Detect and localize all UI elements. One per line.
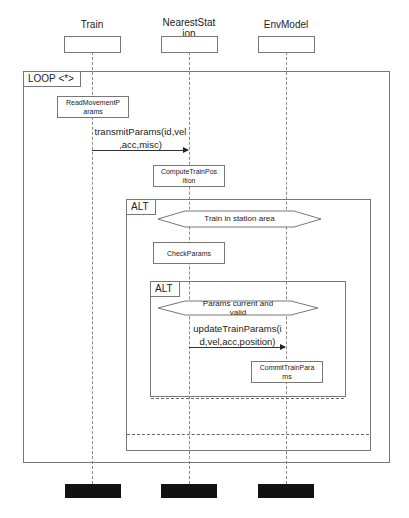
loop-frame-label: LOOP <*> [24, 72, 81, 87]
lifeline-head-nearest-station[interactable] [161, 36, 218, 53]
lifeline-foot-envmodel [258, 484, 314, 498]
lifeline-label-train: Train [52, 19, 132, 30]
activity-check-params[interactable]: CheckParams [153, 242, 225, 264]
message-transmit-params-label: transmitParams(id,vel ,acc,misc) [92, 125, 189, 151]
guard-line1: Params current and [178, 299, 298, 308]
lifeline-foot-train [65, 484, 121, 498]
guard-line2: valid [178, 308, 298, 317]
activity-line1: CommitTrainPara [260, 363, 315, 372]
activity-line2: arams [66, 107, 120, 116]
message-transmit-params-arrow[interactable] [92, 150, 188, 151]
outer-alt-label: ALT [127, 200, 156, 215]
lifeline-foot-nearest-station [161, 484, 217, 498]
message-line1: updateTrainParams(i [189, 322, 286, 335]
activity-label: CheckParams [167, 249, 211, 258]
lifeline-head-train[interactable] [64, 36, 121, 53]
inner-alt-separator [151, 398, 344, 399]
lifeline-label-envmodel: EnvModel [246, 19, 326, 30]
activity-line2: ms [260, 372, 315, 381]
outer-alt-guard: Train in station area [157, 214, 322, 223]
activity-line1: ComputeTrainPos [161, 167, 217, 176]
activity-read-movement-params[interactable]: ReadMovementP arams [57, 96, 129, 118]
message-line1: transmitParams(id,vel [92, 125, 189, 138]
outer-alt-separator [127, 434, 369, 435]
inner-alt-label: ALT [151, 282, 180, 297]
inner-alt-guard: Params current and valid [178, 299, 298, 317]
activity-commit-train-params[interactable]: CommitTrainPara ms [251, 361, 323, 383]
lifeline-label-line1: NearestStat [149, 17, 229, 28]
message-update-train-params-label: updateTrainParams(i d,vel,acc,position) [189, 322, 286, 348]
message-update-train-params-arrow[interactable] [189, 347, 285, 348]
lifeline-head-envmodel[interactable] [258, 36, 315, 53]
activity-line1: ReadMovementP [66, 98, 120, 107]
activity-compute-train-position[interactable]: ComputeTrainPos ition [153, 165, 225, 187]
activity-line2: ition [161, 176, 217, 185]
